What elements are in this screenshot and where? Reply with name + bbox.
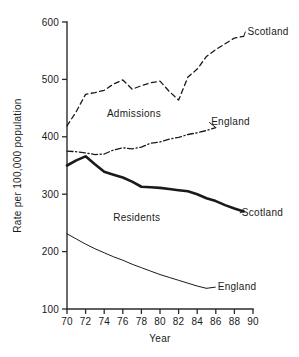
x-tick-label: 84 [191,316,203,327]
series-line-residents-scotland [67,156,244,211]
y-tick-label: 500 [42,74,60,85]
series-label-residents-england: England [218,281,257,292]
series-leader-0 [244,32,246,37]
y-axis-title: Rate per 100,000 population [12,98,23,232]
series-label-residents-scotland: Scotland [242,207,283,218]
series-line-admissions-england [67,128,216,155]
y-tick-label: 300 [42,189,60,200]
group-annotation-admissions: Admissions [107,108,161,119]
x-tick-label: 86 [210,316,222,327]
series-label-admissions-scotland: Scotland [247,26,288,37]
x-tick-label: 82 [173,316,185,327]
series-label-admissions-england: England [211,116,250,127]
x-tick-label: 70 [61,316,73,327]
chart-figure: 1002003004005006007072747678808284868890… [0,0,299,357]
x-tick-label: 74 [98,316,110,327]
x-axis-title: Year [149,333,171,344]
group-annotation-residents: Residents [113,212,160,223]
series-leader-3 [207,287,216,288]
x-tick-label: 72 [80,316,92,327]
y-tick-label: 100 [42,304,60,315]
line-chart: 1002003004005006007072747678808284868890… [0,0,299,357]
x-tick-label: 78 [136,316,148,327]
x-tick-label: 88 [229,316,241,327]
x-tick-label: 90 [247,316,259,327]
x-tick-label: 76 [117,316,129,327]
series-line-residents-england [67,234,207,289]
chart-series [67,36,244,288]
y-tick-label: 400 [42,131,60,142]
x-tick-label: 80 [154,316,166,327]
y-tick-label: 600 [42,17,60,28]
y-tick-label: 200 [42,246,60,257]
